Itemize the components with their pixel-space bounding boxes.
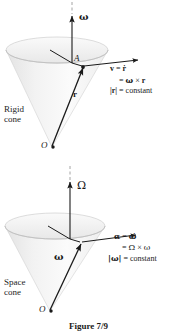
equation-r-constant: |r| = constant	[110, 86, 152, 97]
space-cone-equations: α = ω̇ = Ω × ω |ω| = constant	[108, 231, 157, 265]
equation-bigomega-cross-omega: = Ω × ω	[108, 243, 157, 254]
eq3-constant: constant	[126, 86, 153, 95]
eq-alpha-equals: =	[122, 232, 127, 241]
eq2b-bigomega: Ω	[129, 243, 136, 252]
eq3-equals: =	[119, 86, 124, 95]
point-a-label: A	[74, 54, 80, 63]
omega-vector-label-bottom: ω	[54, 252, 64, 263]
eq2-cross: ×	[135, 76, 140, 85]
eq-v-equals: =	[116, 64, 121, 73]
eq-alpha-symbol: α	[114, 231, 120, 241]
eq-rdot-symbol: ṙ	[123, 64, 127, 73]
space-cone-label-line2: cone	[4, 287, 21, 297]
figure-7-9: ω A r O Rigid cone v = ṙ = ω × r |r| = …	[0, 0, 177, 334]
diagram-canvas	[0, 0, 177, 334]
rigid-cone-label-line1: Rigid	[4, 104, 24, 114]
eq2b-omega: ω	[144, 243, 151, 252]
equation-omega-cross-r: = ω × r	[110, 75, 152, 87]
omega-axis-label-top: ω	[79, 12, 89, 23]
eq3b-abs-omega: |ω|	[108, 253, 121, 263]
equation-omega-constant: |ω| = constant	[108, 253, 157, 265]
eq3b-constant: constant	[130, 254, 157, 263]
omega-capital-axis-label: Ω	[77, 180, 86, 192]
point-o-marker-top	[51, 145, 54, 148]
space-cone-label: Space cone	[4, 277, 26, 298]
eq2-equals: =	[119, 76, 124, 85]
point-a-marker	[81, 65, 85, 69]
point-o-label-top: O	[41, 141, 48, 150]
point-o-label-bottom: O	[39, 305, 46, 314]
equation-v-line: v = ṙ	[110, 64, 152, 75]
position-vector-label: r	[73, 90, 77, 99]
eq3-abs-r: |r|	[110, 86, 117, 95]
eq-omegadot-symbol: ω̇	[129, 231, 137, 241]
rigid-cone-label: Rigid cone	[4, 104, 24, 125]
space-cone-label-line1: Space	[4, 277, 26, 287]
eq3b-equals: =	[123, 254, 128, 263]
equation-alpha-line: α = ω̇	[108, 231, 157, 243]
eq2-omega: ω	[126, 75, 134, 85]
eq-v-symbol: v	[110, 64, 114, 73]
eq2b-equals: =	[122, 243, 127, 252]
eq2b-cross: ×	[137, 243, 142, 252]
point-o-marker-bottom	[49, 309, 52, 312]
eq2-r: r	[142, 76, 146, 85]
rigid-cone-label-line2: cone	[4, 114, 21, 124]
figure-caption: Figure 7/9	[0, 322, 177, 331]
rigid-cone-equations: v = ṙ = ω × r |r| = constant	[110, 64, 152, 97]
